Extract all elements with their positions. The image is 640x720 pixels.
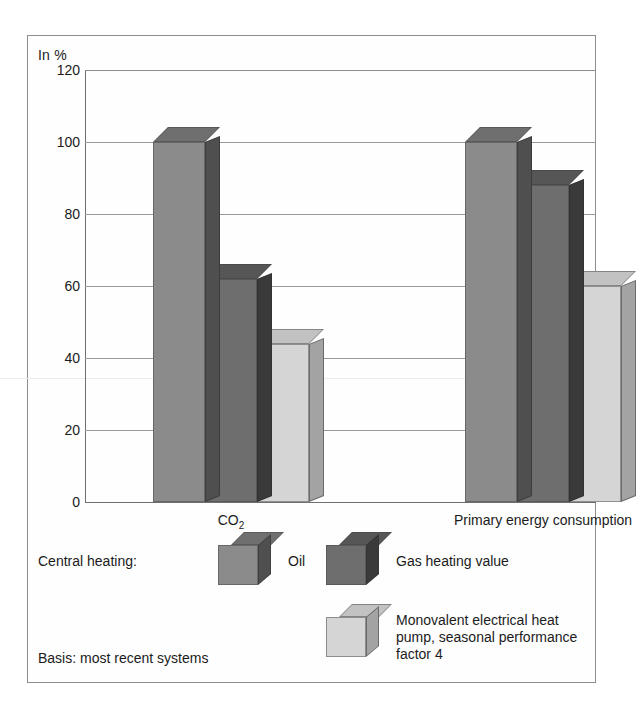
legend-swatch-oil-top: [231, 532, 284, 545]
legend-basis-note: Basis: most recent systems: [38, 650, 208, 667]
legend-label-heatpump: Monovalent electrical heat pump, seasona…: [396, 612, 586, 663]
legend-swatch-gas-side: [366, 534, 379, 585]
bar-side-face: [257, 273, 272, 502]
bar-side-face: [621, 280, 636, 502]
legend-swatch-heatpump-front: [326, 617, 366, 657]
legend-swatch-gas-top: [339, 532, 392, 545]
legend-label-gas: Gas heating value: [396, 553, 509, 570]
legend-label-oil: Oil: [288, 553, 305, 570]
legend-swatch-gas-front: [326, 545, 366, 585]
legend-swatch-oil-front: [218, 545, 258, 585]
bar-side-face: [569, 179, 584, 502]
legend-prefix-label: Central heating:: [38, 553, 137, 570]
bar-front-face: [465, 142, 517, 502]
legend-swatch-heatpump-side: [366, 606, 379, 657]
bar-side-face: [205, 136, 220, 502]
legend-swatch-heatpump: [326, 606, 366, 646]
bar-co2-oil: [153, 142, 205, 502]
bar-front-face: [153, 142, 205, 502]
legend-swatch-oil-side: [258, 534, 271, 585]
legend-swatch-oil: [218, 534, 258, 574]
bar-side-face: [309, 338, 324, 502]
legend-swatch-gas: [326, 534, 366, 574]
legend-swatch-heatpump-top: [339, 604, 392, 617]
bar-side-face: [517, 136, 532, 502]
bar-primary-energy-consumption-oil: [465, 142, 517, 502]
